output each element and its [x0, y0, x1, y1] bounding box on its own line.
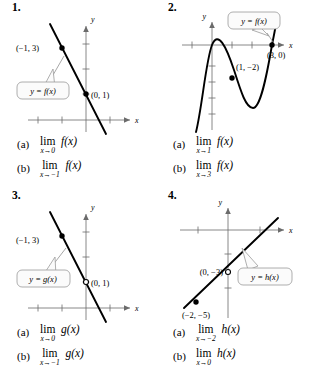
- answer-row: (b) lim x→3 f(x): [173, 160, 311, 184]
- limit-subscript: x→−1: [40, 359, 60, 367]
- y-axis-arrow: [209, 22, 215, 28]
- limit-function: f(x): [217, 160, 233, 172]
- limit-operator: lim x→0: [196, 348, 211, 367]
- y-axis-label: y: [90, 15, 95, 24]
- x-axis-arrow: [278, 42, 284, 48]
- point-marker-filled: [229, 75, 234, 80]
- callout-label: y = h(x): [250, 272, 279, 282]
- limit-subscript: x→1: [196, 147, 211, 155]
- point-label: (3, 0): [267, 50, 286, 60]
- function-graph: [50, 24, 106, 134]
- function-graph: [50, 212, 106, 322]
- point-marker-open: [226, 270, 231, 275]
- graph-figure-2: x y (1, −2) (3, 0) y = f(x): [156, 8, 311, 136]
- point-label: (0, 1): [91, 90, 110, 100]
- limit-operator: lim x→−1: [40, 160, 60, 179]
- limit-expression: lim x→1 f(x): [196, 136, 233, 155]
- limit-function: h(x): [221, 324, 240, 336]
- limit-operator: lim x→1: [196, 136, 211, 155]
- answer-tag: (a): [173, 327, 185, 338]
- callout-tail: [242, 248, 258, 270]
- answer-tag: (a): [17, 327, 29, 338]
- point-marker-filled: [269, 42, 274, 47]
- limit-expression: lim x→3 f(x): [196, 160, 233, 179]
- limit-operator: lim x→−2: [196, 324, 216, 343]
- point-label: (−1, 3): [16, 235, 39, 245]
- point-label: (−1, 3): [16, 43, 39, 53]
- x-axis-label: x: [288, 226, 293, 235]
- answer-tag: (b): [173, 351, 186, 362]
- answer-row: (a) lim x→0 f(x): [17, 136, 157, 160]
- answer-tag: (b): [17, 351, 30, 362]
- answer-row: (b) lim x→−1 f(x): [17, 160, 157, 184]
- x-axis-label: x: [134, 304, 139, 313]
- callout-label: y = f(x): [29, 86, 56, 96]
- limit-expression: lim x→−1 f(x): [40, 160, 81, 179]
- x-axis-arrow: [124, 305, 130, 311]
- point-label: (1, −2): [236, 62, 259, 72]
- answer-tag: (a): [173, 139, 185, 150]
- problem-2: 2. x y: [156, 0, 311, 188]
- y-axis-arrow: [83, 26, 89, 32]
- y-axis-label: y: [201, 12, 206, 21]
- callout-label: y = g(x): [28, 274, 57, 284]
- point-marker-filled: [59, 45, 64, 50]
- point-marker-filled: [83, 91, 88, 96]
- limit-function: f(x): [65, 160, 81, 172]
- limit-function: g(x): [65, 348, 84, 360]
- problem-1: 1. x y: [0, 0, 155, 188]
- answer-row: (a) lim x→−2 h(x): [173, 324, 311, 348]
- answer-tag: (b): [17, 163, 30, 174]
- point-marker-filled: [59, 233, 64, 238]
- limit-operator: lim x→0: [40, 136, 55, 155]
- limit-expression: lim x→0 f(x): [40, 136, 77, 155]
- answer-row: (a) lim x→1 f(x): [173, 136, 311, 160]
- x-axis-arrow: [124, 117, 130, 123]
- answers-list-3: (a) lim x→0 g(x) (b) lim x→−1 g(x): [17, 324, 157, 372]
- x-axis-arrow: [278, 227, 284, 233]
- y-axis-label: y: [90, 203, 95, 212]
- graph-figure-1: x y (−1, 3) (0, 1) y = f(x): [0, 8, 155, 136]
- callout-label: y = f(x): [240, 16, 267, 26]
- graph-figure-3: x y (−1, 3) (0, 1) y = g(x): [0, 196, 155, 324]
- answer-row: (b) lim x→−1 g(x): [17, 348, 157, 372]
- y-axis-label: y: [217, 198, 222, 207]
- answers-list-1: (a) lim x→0 f(x) (b) lim x→−1 f(x): [17, 136, 157, 184]
- limit-subscript: x→0: [196, 359, 211, 367]
- limit-operator: lim x→3: [196, 160, 211, 179]
- limit-operator: lim x→−1: [40, 348, 60, 367]
- limit-function: f(x): [61, 136, 77, 148]
- point-label: (0, 1): [91, 278, 110, 288]
- limit-subscript: x→3: [196, 171, 211, 179]
- point-label: (−2, −5): [182, 310, 210, 320]
- y-axis-arrow: [83, 214, 89, 220]
- limit-function: h(x): [217, 348, 236, 360]
- x-axis-label: x: [288, 41, 293, 50]
- problem-3: 3. x y: [0, 188, 155, 376]
- limit-expression: lim x→0 h(x): [196, 348, 236, 367]
- graph-figure-4: x y (0, −3) (−2, −5) y = h(x): [156, 196, 311, 324]
- limit-subscript: x→0: [40, 147, 55, 155]
- point-label: (0, −3): [200, 267, 223, 277]
- limit-function: f(x): [217, 136, 233, 148]
- x-axis-label: x: [134, 116, 139, 125]
- point-marker-filled: [193, 299, 198, 304]
- limit-subscript: x→0: [40, 335, 55, 343]
- problem-4: 4. x y: [156, 188, 311, 376]
- answer-tag: (b): [173, 163, 186, 174]
- limit-expression: lim x→−2 h(x): [196, 324, 240, 343]
- exercise-page: 1. x y: [0, 0, 311, 376]
- limit-operator: lim x→0: [40, 324, 55, 343]
- function-graph: [196, 24, 276, 132]
- limit-subscript: x→−2: [196, 335, 216, 343]
- limit-expression: lim x→0 g(x): [40, 324, 80, 343]
- answers-list-4: (a) lim x→−2 h(x) (b) lim x→0 h(x): [173, 324, 311, 372]
- answers-list-2: (a) lim x→1 f(x) (b) lim x→3 f(x): [173, 136, 311, 184]
- y-axis-arrow: [225, 208, 231, 214]
- answer-row: (a) lim x→0 g(x): [17, 324, 157, 348]
- point-marker-open: [84, 280, 89, 285]
- limit-subscript: x→−1: [40, 171, 60, 179]
- limit-expression: lim x→−1 g(x): [40, 348, 84, 367]
- limit-function: g(x): [61, 324, 80, 336]
- answer-row: (b) lim x→0 h(x): [173, 348, 311, 372]
